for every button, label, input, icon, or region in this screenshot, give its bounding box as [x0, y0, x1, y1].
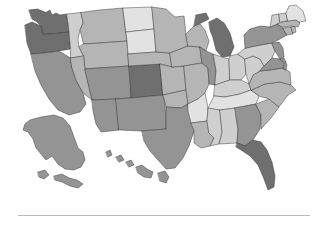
state-AZ[interactable]: [92, 99, 119, 132]
state-MN[interactable]: [152, 7, 188, 53]
state-GA[interactable]: [235, 104, 261, 146]
state-WY[interactable]: [79, 41, 129, 69]
state-FL[interactable]: [236, 140, 275, 190]
state-UT[interactable]: [85, 66, 131, 100]
state-MT[interactable]: [80, 8, 127, 44]
state-NM[interactable]: [116, 95, 166, 131]
state-ND[interactable]: [123, 7, 154, 32]
us-states-map[interactable]: [10, 4, 315, 209]
state-SD[interactable]: [126, 29, 156, 54]
us-choropleth-figure: [0, 0, 323, 231]
state-KS[interactable]: [160, 64, 186, 95]
state-ME[interactable]: [286, 5, 306, 22]
state-CO[interactable]: [129, 64, 163, 98]
state-AK[interactable]: [23, 115, 85, 188]
states-layer: [23, 5, 306, 190]
footer-divider-rule: [18, 215, 310, 216]
state-NE[interactable]: [128, 52, 172, 67]
state-AL[interactable]: [219, 108, 238, 144]
